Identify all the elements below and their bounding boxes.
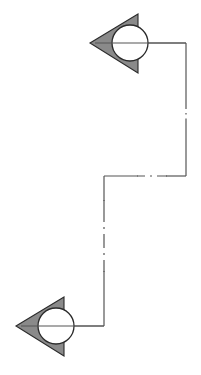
section-diagram-svg (0, 0, 201, 375)
drawing-canvas (0, 0, 201, 375)
section-cut-polyline[interactable] (56, 43, 186, 326)
bottom-section-marker[interactable] (16, 297, 104, 356)
top-section-marker[interactable] (90, 14, 186, 73)
